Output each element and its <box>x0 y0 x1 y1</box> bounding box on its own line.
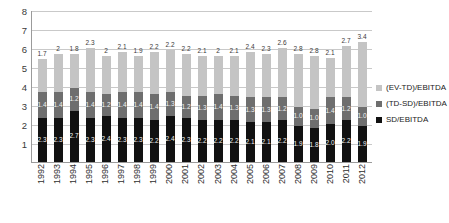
bar-segment[interactable]: 2.2 <box>150 52 159 94</box>
legend-item[interactable]: SD/EBITDA <box>376 115 447 124</box>
bar-segment[interactable]: 1.4 <box>118 92 127 119</box>
bar-column[interactable]: 3.41.01.9 <box>354 11 370 162</box>
bar-stack[interactable]: 2.11.32.2 <box>198 56 207 162</box>
bar-segment[interactable]: 1.0 <box>294 107 303 126</box>
bar-column[interactable]: 21.42.3 <box>50 11 66 162</box>
bar-segment[interactable]: 2.1 <box>262 122 271 162</box>
bar-segment[interactable]: 2.8 <box>310 56 319 109</box>
bar-segment[interactable]: 1.4 <box>54 92 63 119</box>
bar-segment[interactable]: 2.1 <box>198 56 207 96</box>
bar-segment[interactable]: 2.4 <box>246 52 255 98</box>
bar-column[interactable]: 2.71.22.2 <box>338 11 354 162</box>
bar-segment[interactable]: 2.6 <box>278 48 287 97</box>
bar-stack[interactable]: 1.91.42.3 <box>134 56 143 162</box>
bar-stack[interactable]: 2.21.22.3 <box>182 54 191 162</box>
bar-stack[interactable]: 2.81.01.9 <box>294 54 303 162</box>
bar-segment[interactable]: 2.3 <box>182 118 191 162</box>
bar-stack[interactable]: 2.11.32.2 <box>230 56 239 162</box>
bar-segment[interactable]: 2.2 <box>150 120 159 162</box>
bar-stack[interactable]: 2.41.32.1 <box>246 52 255 162</box>
bar-segment[interactable]: 2.2 <box>214 120 223 162</box>
bar-stack[interactable]: 2.61.22.2 <box>278 48 287 162</box>
bar-column[interactable]: 2.31.42.3 <box>82 11 98 162</box>
bar-stack[interactable]: 1.71.42.3 <box>38 59 47 162</box>
bar-stack[interactable]: 2.21.32.4 <box>166 50 175 162</box>
bar-segment[interactable]: 1.3 <box>230 96 239 121</box>
legend-item[interactable]: (EV-TD)/EBITDA <box>376 83 447 92</box>
bar-segment[interactable]: 2.7 <box>70 111 79 162</box>
bar-segment[interactable]: 1.8 <box>310 128 319 162</box>
bar-segment[interactable]: 2.7 <box>342 46 351 97</box>
bar-segment[interactable]: 1.7 <box>38 59 47 91</box>
bar-segment[interactable]: 1.2 <box>70 88 79 111</box>
bar-segment[interactable]: 1.0 <box>310 109 319 128</box>
bar-segment[interactable]: 2.2 <box>198 120 207 162</box>
bar-segment[interactable]: 1.9 <box>294 126 303 162</box>
bar-segment[interactable]: 2.4 <box>166 116 175 162</box>
bar-segment[interactable]: 1.2 <box>102 94 111 117</box>
bar-column[interactable]: 2.41.32.1 <box>242 11 258 162</box>
bar-column[interactable]: 2.11.32.2 <box>226 11 242 162</box>
bar-segment[interactable]: 2 <box>54 54 63 92</box>
bar-stack[interactable]: 2.21.42.2 <box>150 52 159 162</box>
bar-stack[interactable]: 2.31.42.3 <box>86 48 95 162</box>
bar-column[interactable]: 2.11.32.2 <box>194 11 210 162</box>
bar-segment[interactable]: 2 <box>102 56 111 94</box>
bar-segment[interactable]: 2.3 <box>38 118 47 162</box>
bar-segment[interactable]: 2.1 <box>326 58 335 98</box>
bar-column[interactable]: 2.21.22.3 <box>178 11 194 162</box>
bar-segment[interactable]: 2.2 <box>278 120 287 162</box>
bar-segment[interactable]: 3.4 <box>358 42 367 107</box>
bar-segment[interactable]: 1.3 <box>198 96 207 121</box>
bar-column[interactable]: 1.81.22.7 <box>66 11 82 162</box>
bar-segment[interactable]: 2.3 <box>262 54 271 98</box>
bar-segment[interactable]: 2.3 <box>86 118 95 162</box>
bar-column[interactable]: 2.31.32.1 <box>258 11 274 162</box>
bar-segment[interactable]: 1.2 <box>182 96 191 119</box>
bar-column[interactable]: 2.61.22.2 <box>274 11 290 162</box>
bar-segment[interactable]: 1.8 <box>70 54 79 88</box>
bar-segment[interactable]: 1.2 <box>342 97 351 120</box>
bar-segment[interactable]: 2.3 <box>54 118 63 162</box>
bar-stack[interactable]: 2.81.01.8 <box>310 56 319 162</box>
bar-stack[interactable]: 2.31.32.1 <box>262 54 271 162</box>
bar-segment[interactable]: 1.2 <box>278 97 287 120</box>
bar-stack[interactable]: 1.81.22.7 <box>70 54 79 162</box>
bar-segment[interactable]: 1.3 <box>166 92 175 117</box>
bar-column[interactable]: 2.21.32.4 <box>162 11 178 162</box>
bar-segment[interactable]: 1.4 <box>38 92 47 119</box>
bar-segment[interactable]: 2.8 <box>294 54 303 107</box>
bar-stack[interactable]: 21.42.3 <box>54 54 63 162</box>
bar-segment[interactable]: 2.3 <box>86 48 95 92</box>
bar-column[interactable]: 2.81.01.9 <box>290 11 306 162</box>
bar-segment[interactable]: 1.3 <box>262 97 271 122</box>
bar-stack[interactable]: 2.11.42.3 <box>118 52 127 162</box>
bar-segment[interactable]: 1.9 <box>358 126 367 162</box>
bar-stack[interactable]: 3.41.01.9 <box>358 42 367 162</box>
bar-segment[interactable]: 2 <box>214 56 223 94</box>
bar-column[interactable]: 2.21.42.2 <box>146 11 162 162</box>
bar-segment[interactable]: 2.2 <box>230 120 239 162</box>
bar-segment[interactable]: 2.2 <box>166 50 175 92</box>
legend-item[interactable]: (TD-SD)/EBITDA <box>376 99 447 108</box>
bar-column[interactable]: 21.22.4 <box>98 11 114 162</box>
bar-segment[interactable]: 2.1 <box>230 56 239 96</box>
bar-column[interactable]: 2.11.42.3 <box>114 11 130 162</box>
bar-column[interactable]: 1.71.42.3 <box>34 11 50 162</box>
bar-stack[interactable]: 2.71.22.2 <box>342 46 351 162</box>
bar-column[interactable]: 1.91.42.3 <box>130 11 146 162</box>
bar-segment[interactable]: 2.3 <box>134 118 143 162</box>
bar-segment[interactable]: 2.1 <box>118 52 127 92</box>
bar-segment[interactable]: 2.2 <box>342 120 351 162</box>
bar-segment[interactable]: 1.0 <box>358 107 367 126</box>
bar-segment[interactable]: 2.0 <box>326 124 335 162</box>
bar-stack[interactable]: 2.11.42.0 <box>326 58 335 162</box>
bar-segment[interactable]: 1.9 <box>134 56 143 92</box>
bar-segment[interactable]: 1.4 <box>150 94 159 121</box>
bar-segment[interactable]: 2.2 <box>182 54 191 96</box>
bar-segment[interactable]: 1.4 <box>214 94 223 121</box>
bar-stack[interactable]: 21.42.2 <box>214 56 223 162</box>
bar-segment[interactable]: 2.4 <box>102 116 111 162</box>
bar-column[interactable]: 21.42.2 <box>210 11 226 162</box>
bar-segment[interactable]: 1.4 <box>134 92 143 119</box>
